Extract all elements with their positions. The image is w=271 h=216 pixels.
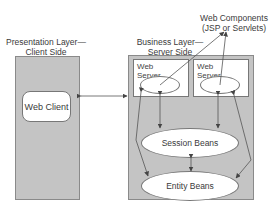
session-beans-ellipse: Session Beans	[141, 128, 239, 158]
entity-beans-ellipse: Entity Beans	[141, 171, 239, 201]
web-components-line1: Web Components	[198, 13, 270, 23]
web-server-ellipse-2	[200, 76, 240, 94]
web-components-line2: (JSP or Servlets)	[198, 23, 270, 33]
business-layer-title-line1: Business Layer—	[130, 37, 210, 47]
presentation-layer-title: Presentation Layer— Client Side	[6, 37, 86, 57]
presentation-layer-title-line1: Presentation Layer—	[6, 37, 86, 47]
web-server-ellipse-1	[140, 76, 180, 94]
business-layer-title: Business Layer— Server Side	[130, 37, 210, 57]
web-components-label: Web Components (JSP or Servlets)	[198, 13, 270, 33]
presentation-layer-panel	[15, 56, 80, 200]
web-client-box: Web Client	[22, 91, 71, 122]
